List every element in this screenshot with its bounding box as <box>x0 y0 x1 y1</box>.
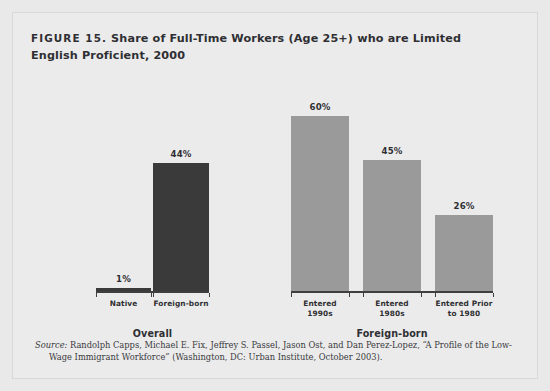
category-label: Entered1980s <box>352 299 432 318</box>
axis-tick <box>151 293 152 297</box>
bar-entered-1990s <box>291 116 349 291</box>
bar-foreign-born <box>153 163 209 291</box>
bar-entered-prior-to-1980 <box>435 215 493 291</box>
axis-tick <box>421 293 422 297</box>
axis-tick <box>96 293 97 297</box>
x-axis-segment <box>291 291 493 293</box>
bar-value-label: 26% <box>435 201 493 211</box>
figure-card: FIGURE 15. Share of Full-Time Workers (A… <box>12 12 538 379</box>
bar-value-label: 60% <box>291 102 349 112</box>
source-note: Source: Randolph Capps, Michael E. Fix, … <box>35 340 521 363</box>
axis-tick <box>209 293 210 297</box>
group-label: Overall <box>96 328 209 339</box>
axis-tick <box>153 293 154 297</box>
axis-tick <box>291 293 292 297</box>
figure-title: FIGURE 15. Share of Full-Time Workers (A… <box>31 30 509 64</box>
figure-number-label: FIGURE 15. <box>31 32 107 44</box>
chart-plot-area: 1%44%60%45%26% NativeForeign-bornEntered… <box>13 73 539 333</box>
source-line-1: Randolph Capps, Michael E. Fix, Jeffrey … <box>70 340 512 350</box>
axis-tick <box>493 293 494 297</box>
bar-value-label: 45% <box>363 146 421 156</box>
axis-tick <box>349 293 350 297</box>
category-label: Foreign-born <box>142 299 220 309</box>
category-label: Entered1990s <box>280 299 360 318</box>
source-line-2: Wage Immigrant Workforce” (Washington, D… <box>35 352 521 364</box>
source-prefix: Source: <box>35 340 67 350</box>
category-label: Entered Priorto 1980 <box>424 299 504 318</box>
group-label: Foreign-born <box>291 328 493 339</box>
axis-tick <box>435 293 436 297</box>
bar-value-label: 1% <box>96 274 151 284</box>
bar-value-label: 44% <box>153 149 209 159</box>
axis-tick <box>363 293 364 297</box>
bar-entered-1980s <box>363 160 421 291</box>
